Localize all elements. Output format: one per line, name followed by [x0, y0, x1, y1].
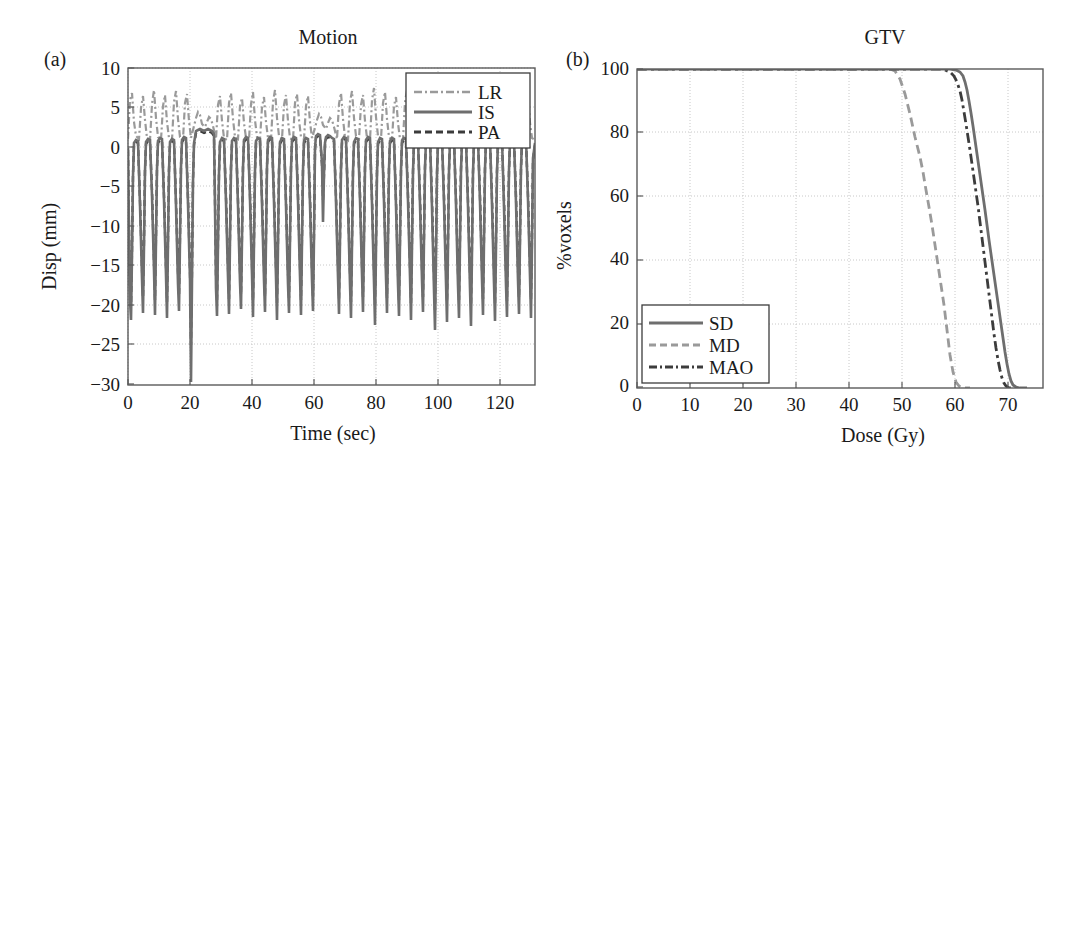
panel-d-cordavoid: (d) CordAvoid 100 80 60 40 20 0 0 10 20 … [545, 470, 1083, 941]
panel-d-plot-area [545, 0, 1083, 471]
figure-panel-grid: (a) Motion 10 5 0 −5 −10 −15 −20 −25 −30… [0, 0, 1083, 941]
panel-c-lung: (c) Lung 100 80 60 40 20 0 0 10 20 30 40… [0, 470, 545, 941]
panel-c-plot-area [0, 0, 545, 471]
